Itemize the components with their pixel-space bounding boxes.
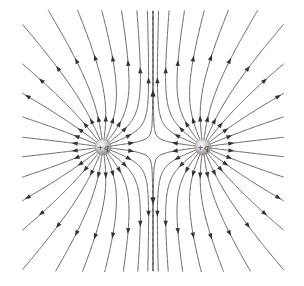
arrow-icon — [110, 117, 116, 124]
arrow-icon — [96, 172, 102, 179]
arrow-icon — [104, 115, 109, 121]
field-line — [206, 154, 284, 270]
field-line — [105, 154, 117, 273]
arrow-icon — [116, 167, 123, 174]
arrow-icon — [226, 133, 233, 139]
field-line — [166, 151, 198, 271]
field-line — [22, 117, 96, 145]
arrow-icon — [163, 67, 168, 73]
field-line — [56, 154, 103, 271]
field-line — [22, 151, 97, 200]
field-line — [190, 154, 202, 273]
arrow-icon — [275, 93, 282, 100]
arrow-icon — [198, 172, 203, 178]
arrow-icon — [205, 172, 211, 179]
field-line — [210, 117, 284, 145]
arrow-icon — [116, 120, 123, 127]
field-line — [110, 11, 153, 146]
arrow-icon — [126, 228, 131, 234]
arrow-icon — [110, 55, 115, 62]
field-line — [22, 93, 97, 142]
arrow-icon — [222, 126, 229, 133]
arrow-icon — [155, 211, 159, 217]
arrow-icon — [191, 55, 196, 62]
arrow-icon — [92, 54, 98, 61]
arrow-icon — [190, 170, 196, 177]
arrow-icon — [205, 115, 211, 122]
arrow-icon — [183, 120, 190, 127]
field-line — [109, 151, 141, 271]
arrow-icon — [73, 133, 80, 139]
field-line — [23, 154, 101, 270]
arrow-icon — [211, 117, 218, 124]
arrow-icon — [191, 232, 196, 239]
charge-label: +q — [97, 143, 109, 152]
arrow-icon — [76, 126, 83, 133]
arrow-icon — [125, 155, 132, 162]
arrow-icon — [126, 60, 131, 66]
arrow-icon — [175, 60, 180, 66]
arrow-icon — [173, 155, 180, 162]
arrow-icon — [155, 77, 159, 83]
field-line — [22, 148, 96, 157]
arrow-icon — [222, 161, 229, 168]
field-line — [210, 137, 284, 146]
charge-label: +q — [197, 143, 209, 152]
field-line — [204, 10, 258, 140]
arrow-icon — [183, 167, 190, 174]
arrow-icon — [88, 169, 95, 176]
field-line — [206, 24, 284, 140]
arrow-icon — [146, 211, 150, 217]
charge-left: +q — [95, 139, 111, 155]
arrow-icon — [110, 232, 115, 239]
field-line — [22, 150, 96, 178]
field-line — [23, 24, 101, 140]
arrow-icon — [73, 57, 80, 64]
arrow-icon — [190, 117, 196, 124]
field-line — [210, 150, 284, 178]
arrow-icon — [175, 228, 180, 234]
charge-right: +q — [195, 139, 211, 155]
field-line — [153, 11, 196, 146]
field-lines — [22, 10, 284, 272]
arrow-icon — [226, 57, 233, 64]
field-line — [48, 10, 102, 140]
arrow-icon — [92, 233, 98, 240]
charges: +q+q — [95, 139, 211, 155]
arrow-icon — [125, 132, 132, 139]
arrow-icon — [226, 155, 233, 161]
arrow-icon — [226, 230, 233, 237]
arrow-icon — [275, 194, 282, 201]
field-line — [209, 151, 284, 200]
arrow-icon — [173, 132, 180, 139]
arrow-icon — [208, 233, 214, 240]
arrow-icon — [104, 172, 109, 178]
arrow-icon — [24, 194, 31, 201]
arrow-icon — [110, 170, 116, 177]
arrow-icon — [211, 169, 218, 176]
field-diagram: +q+q — [0, 0, 304, 286]
arrow-icon — [76, 161, 83, 168]
field-line — [210, 148, 284, 157]
arrow-icon — [198, 115, 203, 121]
arrow-icon — [146, 77, 150, 83]
arrow-icon — [138, 67, 143, 73]
arrow-icon — [24, 93, 31, 100]
field-line — [22, 137, 96, 146]
arrow-icon — [73, 230, 80, 237]
arrow-icon — [88, 117, 95, 124]
field-line — [209, 93, 284, 142]
arrow-icon — [73, 155, 80, 161]
arrow-icon — [163, 221, 168, 227]
arrow-icon — [96, 115, 102, 122]
arrow-icon — [138, 221, 143, 227]
arrow-icon — [208, 54, 214, 61]
field-line — [204, 154, 251, 271]
